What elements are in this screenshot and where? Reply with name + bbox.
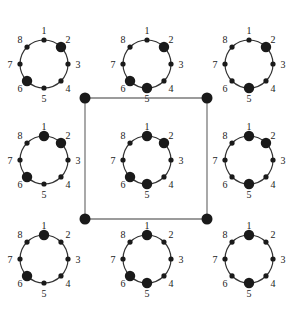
node-label-2: 2 [66,229,71,240]
node-8 [24,239,29,244]
node-label-2: 2 [169,34,174,45]
node-label-1: 1 [247,121,252,132]
configuration-center: 12345678 [111,121,184,200]
node-4 [263,174,268,179]
node-label-5: 5 [42,93,47,104]
node-label-4: 4 [169,83,174,94]
node-4 [161,174,166,179]
node-label-6: 6 [120,179,125,190]
node-label-3: 3 [76,155,81,166]
node-label-8: 8 [120,130,125,141]
configurations: 1234567812345678123456781234567812345678… [8,25,286,299]
node-label-7: 7 [111,59,116,70]
node-8 [24,140,29,145]
node-label-1: 1 [247,220,252,231]
node-label-7: 7 [213,254,218,265]
node-8 [229,239,234,244]
node-1-highlighted [142,131,152,141]
node-3 [65,157,70,162]
configuration-top-right: 12345678 [213,25,286,104]
node-8 [229,44,234,49]
node-label-4: 4 [169,278,174,289]
node-label-1: 1 [42,220,47,231]
node-label-8: 8 [120,34,125,45]
node-label-4: 4 [66,278,71,289]
node-1-highlighted [39,131,49,141]
node-label-7: 7 [111,254,116,265]
node-label-5: 5 [247,189,252,200]
node-7 [120,256,125,261]
node-1-highlighted [39,230,49,240]
node-label-5: 5 [42,189,47,200]
node-label-2: 2 [271,229,276,240]
node-label-8: 8 [17,34,22,45]
node-label-6: 6 [17,83,22,94]
node-label-7: 7 [213,155,218,166]
node-label-5: 5 [145,93,150,104]
node-label-3: 3 [281,155,286,166]
node-6 [229,273,234,278]
node-2 [58,239,63,244]
node-2 [161,239,166,244]
node-6-highlighted [125,172,135,182]
node-4 [263,273,268,278]
node-label-4: 4 [66,83,71,94]
node-5 [41,181,46,186]
node-7 [17,61,22,66]
node-label-5: 5 [145,288,150,299]
node-label-1: 1 [247,25,252,36]
node-8 [127,44,132,49]
node-label-1: 1 [42,121,47,132]
node-6-highlighted [125,271,135,281]
node-5 [41,85,46,90]
node-label-6: 6 [17,179,22,190]
node-label-8: 8 [17,229,22,240]
configuration-top-left: 12345678 [8,25,81,104]
node-6 [229,78,234,83]
node-6-highlighted [22,172,32,182]
node-5 [41,280,46,285]
node-label-1: 1 [145,25,150,36]
node-label-2: 2 [271,130,276,141]
node-3 [65,256,70,261]
configuration-middle-left: 12345678 [8,121,81,200]
square-corner-bottom-left [80,214,91,225]
node-4 [161,78,166,83]
node-label-2: 2 [66,130,71,141]
node-label-5: 5 [145,189,150,200]
node-1 [144,37,149,42]
node-label-3: 3 [281,254,286,265]
node-label-2: 2 [169,229,174,240]
node-label-2: 2 [169,130,174,141]
node-label-8: 8 [222,130,227,141]
node-label-6: 6 [222,83,227,94]
central-square [80,93,213,225]
node-8 [127,140,132,145]
node-6-highlighted [125,76,135,86]
node-3 [168,157,173,162]
node-label-3: 3 [179,59,184,70]
node-3 [168,256,173,261]
configuration-bottom-center: 12345678 [111,220,184,299]
node-6 [229,174,234,179]
node-label-5: 5 [247,93,252,104]
node-label-1: 1 [42,25,47,36]
node-label-3: 3 [179,254,184,265]
node-label-1: 1 [145,121,150,132]
node-label-8: 8 [120,229,125,240]
node-7 [17,157,22,162]
node-label-8: 8 [222,34,227,45]
node-label-4: 4 [169,179,174,190]
node-label-2: 2 [66,34,71,45]
node-8 [127,239,132,244]
node-label-7: 7 [111,155,116,166]
node-label-7: 7 [213,59,218,70]
node-3 [65,61,70,66]
node-label-1: 1 [145,220,150,231]
node-4 [58,273,63,278]
node-label-5: 5 [42,288,47,299]
configuration-bottom-left: 12345678 [8,220,81,299]
configuration-middle-right: 12345678 [213,121,286,200]
diagram-canvas: 1234567812345678123456781234567812345678… [0,0,292,318]
node-label-3: 3 [281,59,286,70]
